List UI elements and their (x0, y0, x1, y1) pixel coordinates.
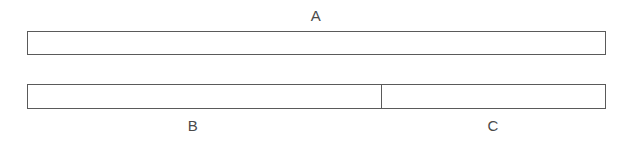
tape-diagram: A B C (0, 0, 629, 142)
bar-label-c: C (487, 118, 498, 133)
bar-label-a: A (311, 8, 321, 23)
segment-divider-b-c (381, 85, 382, 108)
bar-bc (27, 84, 606, 109)
bar-a (27, 31, 606, 55)
bar-label-b: B (188, 118, 198, 133)
